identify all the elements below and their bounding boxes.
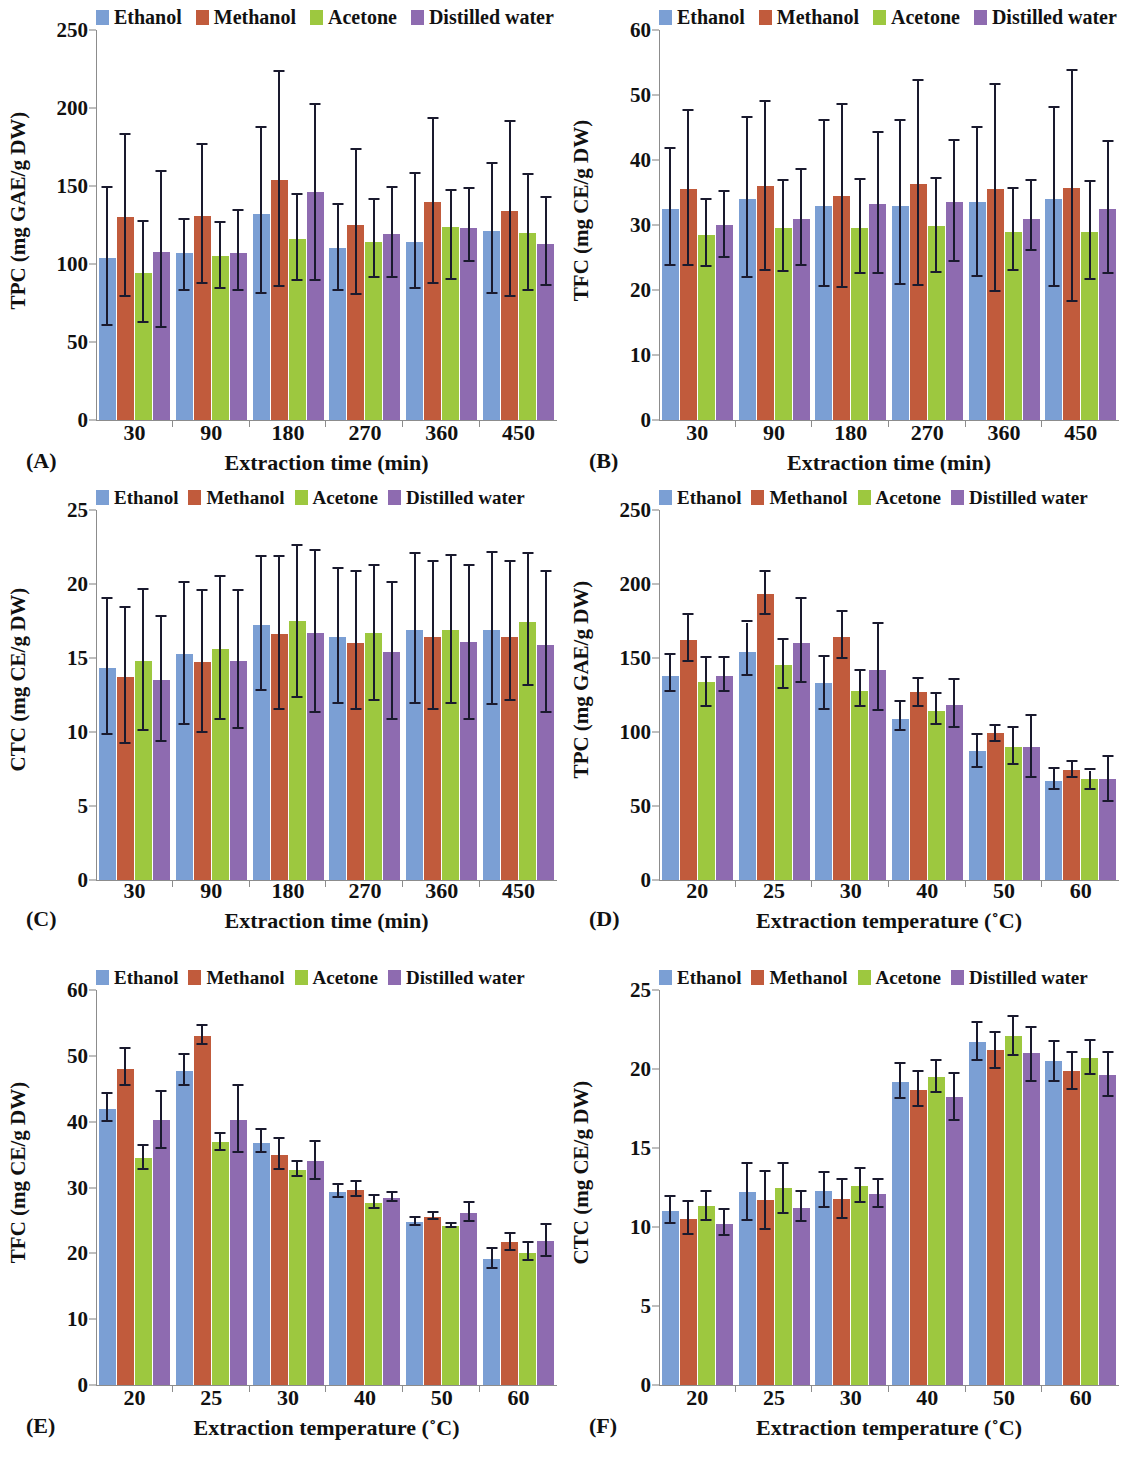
legend-item-ethanol[interactable]: Ethanol: [659, 968, 741, 987]
bar[interactable]: [716, 676, 733, 880]
bar[interactable]: [212, 1142, 229, 1385]
legend-item-methanol[interactable]: Methanol: [196, 7, 296, 27]
bar-item[interactable]: [1045, 1061, 1062, 1385]
bar-item[interactable]: [757, 594, 774, 880]
bar-item[interactable]: [928, 226, 945, 420]
bar[interactable]: [365, 1203, 382, 1385]
bar[interactable]: [739, 652, 756, 880]
bar-item[interactable]: [537, 645, 554, 880]
bar-item[interactable]: [833, 1199, 850, 1385]
bar-item[interactable]: [442, 1226, 459, 1385]
bar-item[interactable]: [99, 668, 116, 880]
bar-item[interactable]: [892, 719, 909, 880]
bar-item[interactable]: [289, 621, 306, 880]
bar-item[interactable]: [987, 1050, 1004, 1385]
bar-item[interactable]: [910, 184, 927, 420]
bar-item[interactable]: [253, 214, 270, 420]
bar[interactable]: [1081, 779, 1098, 880]
bar-item[interactable]: [1045, 199, 1062, 420]
bar-item[interactable]: [289, 239, 306, 420]
bar-item[interactable]: [1045, 781, 1062, 880]
bar-item[interactable]: [793, 219, 810, 421]
legend-item-distilled-water[interactable]: Distilled water: [411, 7, 554, 27]
bar-item[interactable]: [194, 662, 211, 880]
legend-item-ethanol[interactable]: Ethanol: [96, 968, 178, 987]
bar-item[interactable]: [483, 630, 500, 880]
legend-item-distilled-water[interactable]: Distilled water: [974, 7, 1117, 27]
bar-item[interactable]: [815, 206, 832, 421]
bar[interactable]: [1063, 770, 1080, 880]
bar-item[interactable]: [230, 253, 247, 420]
bar-item[interactable]: [1023, 219, 1040, 421]
bar-item[interactable]: [99, 258, 116, 420]
legend-item-acetone[interactable]: Acetone: [295, 488, 378, 507]
bar-item[interactable]: [460, 1213, 477, 1385]
bar-item[interactable]: [176, 654, 193, 880]
bar[interactable]: [815, 683, 832, 880]
bar-item[interactable]: [153, 680, 170, 880]
bar-item[interactable]: [176, 253, 193, 420]
bar-item[interactable]: [987, 733, 1004, 880]
bar-item[interactable]: [680, 1219, 697, 1385]
bar-item[interactable]: [1005, 1036, 1022, 1385]
bar[interactable]: [117, 1069, 134, 1385]
bar-item[interactable]: [910, 1090, 927, 1385]
bar[interactable]: [1005, 1036, 1022, 1385]
bar-item[interactable]: [537, 1241, 554, 1385]
bar[interactable]: [739, 1192, 756, 1385]
bar[interactable]: [1023, 1053, 1040, 1385]
bar[interactable]: [680, 1219, 697, 1385]
bar[interactable]: [946, 1097, 963, 1385]
bar-item[interactable]: [793, 1208, 810, 1385]
bar-item[interactable]: [460, 642, 477, 880]
legend-item-methanol[interactable]: Methanol: [759, 7, 859, 27]
bar-item[interactable]: [519, 233, 536, 420]
bar-item[interactable]: [289, 1170, 306, 1385]
bar-item[interactable]: [329, 248, 346, 420]
legend-item-ethanol[interactable]: Ethanol: [96, 7, 182, 27]
bar-item[interactable]: [329, 1192, 346, 1385]
bar-item[interactable]: [212, 649, 229, 880]
bar-item[interactable]: [212, 256, 229, 420]
bar-item[interactable]: [739, 1192, 756, 1385]
bar[interactable]: [757, 594, 774, 880]
bar[interactable]: [910, 692, 927, 880]
legend-item-methanol[interactable]: Methanol: [751, 488, 847, 507]
bar[interactable]: [775, 665, 792, 880]
bar[interactable]: [519, 1253, 536, 1385]
bar-item[interactable]: [501, 637, 518, 880]
bar-item[interactable]: [698, 235, 715, 420]
bar-item[interactable]: [851, 691, 868, 880]
bar[interactable]: [946, 705, 963, 880]
bar[interactable]: [680, 640, 697, 880]
bar-item[interactable]: [946, 705, 963, 880]
bar-item[interactable]: [271, 634, 288, 880]
bar[interactable]: [662, 676, 679, 880]
bar[interactable]: [99, 1109, 116, 1386]
bar-item[interactable]: [892, 206, 909, 421]
bar[interactable]: [910, 1090, 927, 1385]
bar[interactable]: [833, 1199, 850, 1385]
bar-item[interactable]: [537, 244, 554, 420]
bar[interactable]: [928, 1077, 945, 1385]
bar[interactable]: [698, 1206, 715, 1385]
bar-item[interactable]: [253, 625, 270, 880]
bar-item[interactable]: [1005, 232, 1022, 421]
bar[interactable]: [833, 637, 850, 880]
bar[interactable]: [1045, 1061, 1062, 1385]
bar[interactable]: [153, 1120, 170, 1385]
bar-item[interactable]: [519, 622, 536, 880]
bar-item[interactable]: [869, 204, 886, 420]
bar-item[interactable]: [946, 202, 963, 420]
bar[interactable]: [135, 1158, 152, 1385]
bar-item[interactable]: [716, 225, 733, 420]
bar-item[interactable]: [716, 676, 733, 880]
legend-item-ethanol[interactable]: Ethanol: [659, 7, 745, 27]
bar-item[interactable]: [307, 633, 324, 880]
bar[interactable]: [1063, 1071, 1080, 1385]
bar-item[interactable]: [757, 1200, 774, 1385]
bar-item[interactable]: [1023, 747, 1040, 880]
bar-item[interactable]: [117, 1069, 134, 1385]
bar[interactable]: [424, 1217, 441, 1385]
bar-item[interactable]: [230, 661, 247, 880]
